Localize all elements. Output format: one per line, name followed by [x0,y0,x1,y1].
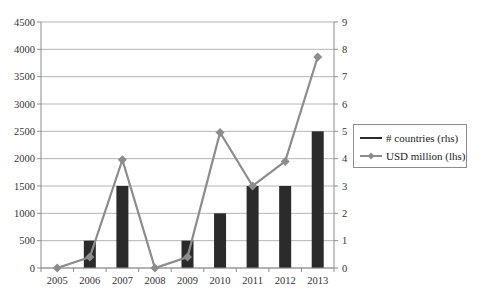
diamond-marker-icon [150,264,159,273]
legend-label: USD million (lhs) [386,150,465,162]
svg-text:2010: 2010 [210,275,231,286]
svg-text:0: 0 [30,263,35,274]
diamond-line-icon [360,151,382,161]
svg-text:1: 1 [342,235,347,246]
svg-text:2005: 2005 [47,275,68,286]
svg-text:1500: 1500 [14,181,35,192]
left-axis-ticks: 050010001500200025003000350040004500 [14,17,41,274]
svg-text:500: 500 [19,235,35,246]
bar [247,186,259,268]
svg-text:4: 4 [342,153,348,164]
svg-text:0: 0 [342,263,347,274]
svg-text:2500: 2500 [14,126,35,137]
svg-text:2008: 2008 [144,275,165,286]
legend-label: # countries (rhs) [386,132,458,144]
svg-text:3500: 3500 [14,71,35,82]
svg-text:4500: 4500 [14,17,35,28]
legend: # countries (rhs) USD million (lhs) [353,124,467,168]
legend-item-usd: USD million (lhs) [360,149,465,163]
svg-text:5: 5 [342,126,347,137]
diamond-marker-icon [118,155,127,164]
svg-text:4000: 4000 [14,44,35,55]
svg-text:2000: 2000 [14,153,35,164]
svg-text:7: 7 [342,71,347,82]
svg-text:2006: 2006 [79,275,100,286]
svg-text:3000: 3000 [14,99,35,110]
svg-text:2011: 2011 [242,275,263,286]
svg-text:2013: 2013 [307,275,328,286]
right-axis-ticks: 0123456789 [334,17,348,274]
x-axis-ticks: 200520062007200820092010201120122013 [41,268,334,286]
svg-text:2012: 2012 [275,275,296,286]
svg-text:9: 9 [342,17,347,28]
diamond-marker-icon [313,52,322,61]
bar [312,131,324,268]
svg-text:8: 8 [342,44,347,55]
svg-text:3: 3 [342,181,347,192]
diamond-marker-icon [53,264,62,273]
svg-text:2009: 2009 [177,275,198,286]
svg-text:2: 2 [342,208,347,219]
bar [214,213,226,268]
svg-text:6: 6 [342,99,347,110]
bar [279,186,291,268]
bar [116,186,128,268]
svg-text:2007: 2007 [112,275,133,286]
svg-text:1000: 1000 [14,208,35,219]
bar-swatch-icon [360,133,382,143]
legend-item-countries: # countries (rhs) [360,131,458,145]
